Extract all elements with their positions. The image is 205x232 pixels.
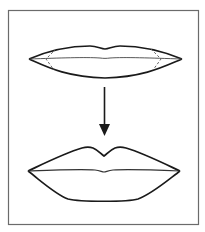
frame-border [9, 11, 199, 225]
diagram-canvas [0, 0, 205, 232]
lip-transformation-figure [0, 0, 205, 232]
